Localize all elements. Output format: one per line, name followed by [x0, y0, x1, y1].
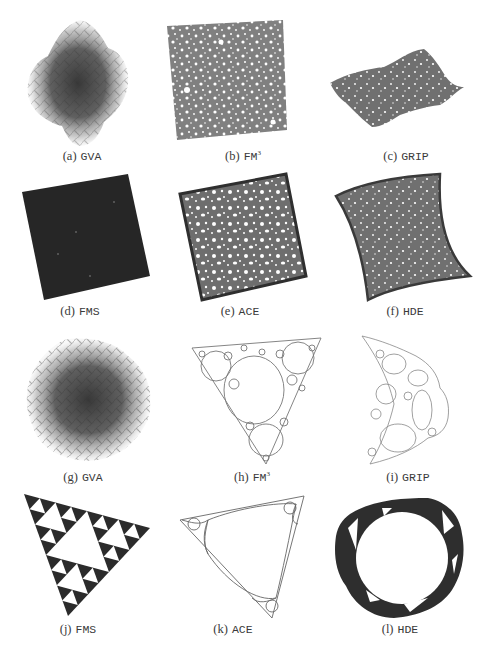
panel-j-fms-sierpinski — [24, 494, 154, 618]
graph-drawing-f — [334, 172, 474, 302]
caption-l: (l)HDE — [382, 622, 419, 637]
caption-f: (f)HDE — [386, 304, 423, 319]
panel-e-ace-grid — [178, 172, 308, 302]
caption-i: (i)GRIP — [386, 470, 429, 485]
panel-f-hde-grid — [334, 172, 474, 302]
graph-drawing-l — [332, 494, 472, 620]
graph-drawing-g — [24, 336, 154, 464]
caption-c: (c)GRIP — [383, 149, 428, 164]
caption-j: (j)FMS — [60, 622, 97, 637]
caption-e: (e)ACE — [221, 304, 260, 319]
graph-drawing-e — [178, 172, 308, 302]
caption-k: (k)ACE — [213, 622, 252, 637]
graph-drawing-i — [360, 334, 460, 468]
graph-drawing-h — [190, 336, 325, 466]
graph-drawing-j — [24, 494, 154, 618]
graph-drawing-d — [20, 172, 150, 302]
caption-d: (d)FMS — [60, 304, 99, 319]
panel-d-fms-grid — [20, 172, 150, 302]
caption-g: (g)GVA — [63, 470, 102, 485]
panel-c-grip-grid — [328, 45, 468, 130]
panel-i-grip-sierpinski — [360, 334, 460, 468]
graph-drawing-b — [165, 18, 295, 143]
graph-drawing-c — [328, 45, 468, 130]
panel-h-fm3-sierpinski — [190, 336, 325, 466]
graph-drawing-a — [22, 18, 132, 148]
caption-h: (h)FM3 — [234, 470, 270, 485]
panel-k-ace-sierpinski — [178, 494, 308, 620]
panel-g-gva-sierpinski — [24, 336, 154, 464]
caption-b: (b)FM3 — [225, 149, 261, 164]
caption-a: (a)GVA — [63, 149, 102, 164]
graph-drawing-k — [178, 494, 308, 620]
panel-l-hde-sierpinski — [332, 494, 472, 620]
panel-b-fm3-grid — [165, 18, 295, 143]
panel-a-gva-grid — [22, 18, 132, 148]
